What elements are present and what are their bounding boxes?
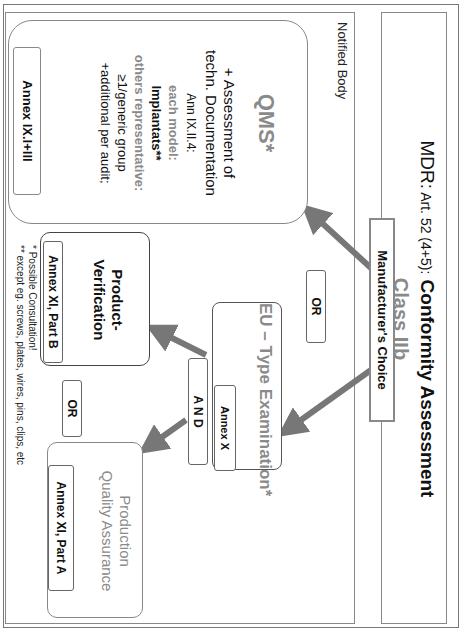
qms-line-5: Implantats** [148,21,164,225]
production-qa-title-1: Production [117,443,134,619]
product-verification-title-2: Verification [91,233,107,367]
annex-xi-part-a-box: Annex XI, Part A [48,465,74,591]
qms-line-4: each model: [165,21,181,225]
arrow-to-qms [310,212,371,268]
qms-line-7: ≥1/generic group [114,21,130,225]
annex-x-box: Annex X [214,385,236,471]
product-verification-box: Product- Verification Annex XI, Part B [40,232,150,366]
or-label-bottom: OR [62,380,82,437]
or-label-top: OR [306,270,326,343]
qms-line-1: + Assessment of [221,21,237,225]
qms-box: QMS* + Assessment of techn. Documentatio… [8,20,308,224]
qms-line-8: +additional per audit; [97,21,113,225]
annex-ix-box: Annex IX.I+III [13,47,41,195]
manufacturers-choice-box: Manufacturer's Choice [369,218,395,422]
production-qa-title-2: Quality Assurance [99,443,116,619]
qms-line-3: Ann IX.II.4: [183,21,199,225]
qms-line-2: techn. Documentation [203,21,219,225]
production-quality-assurance-box: Production Quality Assurance Annex XI, P… [47,442,143,618]
annex-xi-part-b-box: Annex XI, Part B [43,241,63,363]
arrow-to-production-qa [148,420,186,447]
arrow-to-eu-type [287,370,371,430]
arrow-to-product-verification [156,330,206,355]
eu-type-title: EU – Type Examination* [255,303,275,471]
footnote-1: * Possible Consultation! [27,245,38,351]
qms-title: QMS* [253,21,279,225]
and-label: A N D [188,358,208,465]
product-verification-title-1: Product- [109,233,125,367]
footnote-2: ** except eg. screws, plates, wires, pin… [15,245,26,465]
diagram-canvas: MDR: Art. 52 (4+5): Conformity Assessmen… [0,0,462,632]
qms-line-6: others representative: [131,21,147,225]
